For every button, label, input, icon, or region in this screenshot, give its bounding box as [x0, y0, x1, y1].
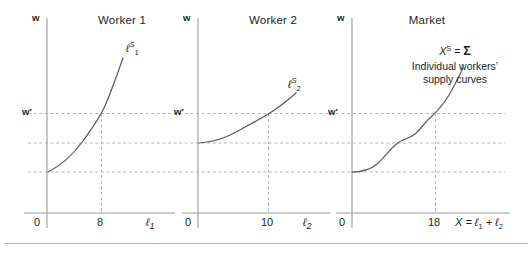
panel3-x-axis-symbol: X = ℓ — [455, 216, 478, 228]
annotation-line-3: supply curves — [385, 73, 525, 86]
panel1-wage-label: w′ — [22, 107, 32, 118]
panel3-wage-label: w′ — [328, 107, 338, 118]
panel2-title: Worker 2 — [214, 14, 332, 27]
panel2-origin-label: 0 — [185, 216, 191, 229]
panel2-supply-curve — [199, 93, 296, 143]
panel3-y-axis-label: w — [337, 13, 344, 24]
panel2-curve-subscript: 2 — [297, 84, 301, 93]
panel3-x-axis-label: X = ℓ1 + ℓ2 — [455, 216, 503, 229]
market-supply-annotation: XS = Σ Individual workers’ supply curves — [385, 44, 525, 86]
panel3-x-axis-tail: + ℓ — [483, 216, 499, 228]
panel2-wage-label: w′ — [174, 107, 184, 118]
panel3-origin-label: 0 — [339, 216, 345, 229]
panel2-curve-label: ℓS2 — [288, 78, 301, 91]
panel1-x-tick-label: 8 — [97, 216, 103, 229]
panel1-curve-label: ℓS1 — [126, 42, 139, 55]
panel2-x-axis-label: ℓ2 — [303, 216, 312, 229]
sigma-symbol: Σ — [463, 44, 471, 58]
annotation-line-2: Individual workers’ — [385, 60, 525, 73]
panel2-x-axis-subscript: 2 — [307, 221, 312, 231]
panel3-x-axis-subscript-2: 2 — [499, 222, 503, 231]
panel1-curve-subscript: 1 — [135, 48, 139, 57]
panel1-supply-curve — [48, 58, 123, 172]
panel1-title: Worker 1 — [63, 14, 181, 27]
labour-supply-figure: Worker 1 w w′ 0 8 ℓ1 ℓS1 Worker 2 w w′ 0… — [0, 0, 532, 256]
panel3-title: Market — [368, 14, 486, 27]
panel1-origin-label: 0 — [34, 216, 40, 229]
panel2-y-axis-label: w — [183, 13, 190, 24]
annotation-equals: = — [451, 45, 463, 57]
annotation-line-1: XS = Σ — [385, 44, 525, 60]
panel2-x-tick-label: 10 — [261, 216, 273, 229]
panel1-x-axis-subscript: 1 — [150, 221, 155, 231]
panel1-x-axis-label: ℓ1 — [146, 216, 155, 229]
panel1-y-axis-label: w — [32, 13, 39, 24]
panel3-x-tick-label: 18 — [428, 216, 440, 229]
